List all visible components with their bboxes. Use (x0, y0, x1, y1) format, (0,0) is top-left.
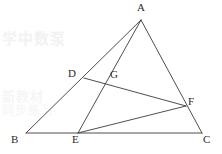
vertex-label-E: E (72, 134, 79, 145)
segment-CA (141, 20, 202, 133)
geometry-figure: 学中数泵 新教材 同步练习 A B C D E F G (0, 0, 222, 154)
vertex-label-G: G (110, 69, 118, 80)
vertex-label-D: D (68, 68, 76, 79)
segment-EF (78, 106, 186, 133)
vertex-label-A: A (137, 2, 145, 13)
vertex-label-C: C (203, 134, 210, 145)
vertex-label-F: F (188, 96, 194, 107)
segment-DF (84, 78, 186, 106)
segment-AB (26, 20, 141, 133)
vertex-label-B: B (11, 134, 18, 145)
